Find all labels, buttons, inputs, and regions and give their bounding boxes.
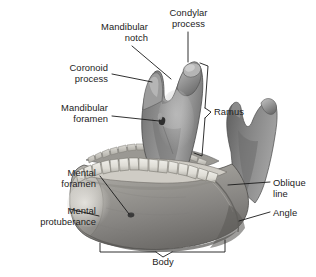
label-mental-foramen-line1: Mental <box>14 167 96 178</box>
label-oblique-line-line2: line <box>273 188 315 199</box>
leader-mandibular-notch <box>132 46 171 79</box>
label-mental-protuberance-line2: protuberance <box>4 216 96 227</box>
label-condylar-process: Condylar process <box>150 7 227 29</box>
label-mandibular-notch-line2: notch <box>59 32 148 43</box>
label-oblique-line: Oblique line <box>273 177 315 199</box>
label-oblique-line-line1: Oblique <box>273 177 315 188</box>
label-coronoid-process-line2: process <box>21 73 108 84</box>
label-condylar-process-line1: Condylar <box>150 7 227 18</box>
label-mental-protuberance: Mental protuberance <box>4 205 96 227</box>
mandible-diagram: Mandibular notch Condylar process Corono… <box>0 0 316 277</box>
label-mental-foramen: Mental foramen <box>14 167 96 189</box>
label-angle: Angle <box>273 207 315 218</box>
label-ramus: Ramus <box>214 106 258 117</box>
label-mental-protuberance-line1: Mental <box>4 205 96 216</box>
label-condylar-process-line2: process <box>150 18 227 29</box>
label-mandibular-foramen-line1: Mandibular <box>14 102 108 113</box>
label-mental-foramen-line2: foramen <box>14 178 96 189</box>
label-coronoid-process: Coronoid process <box>21 62 108 84</box>
label-coronoid-process-line1: Coronoid <box>21 62 108 73</box>
mandible-illustration <box>0 0 316 277</box>
label-mandibular-notch: Mandibular notch <box>59 21 148 43</box>
label-mandibular-foramen: Mandibular foramen <box>14 102 108 124</box>
label-mandibular-notch-line1: Mandibular <box>59 21 148 32</box>
leader-coronoid-process <box>112 74 152 82</box>
label-body: Body <box>140 256 186 267</box>
label-mandibular-foramen-line2: foramen <box>14 113 108 124</box>
